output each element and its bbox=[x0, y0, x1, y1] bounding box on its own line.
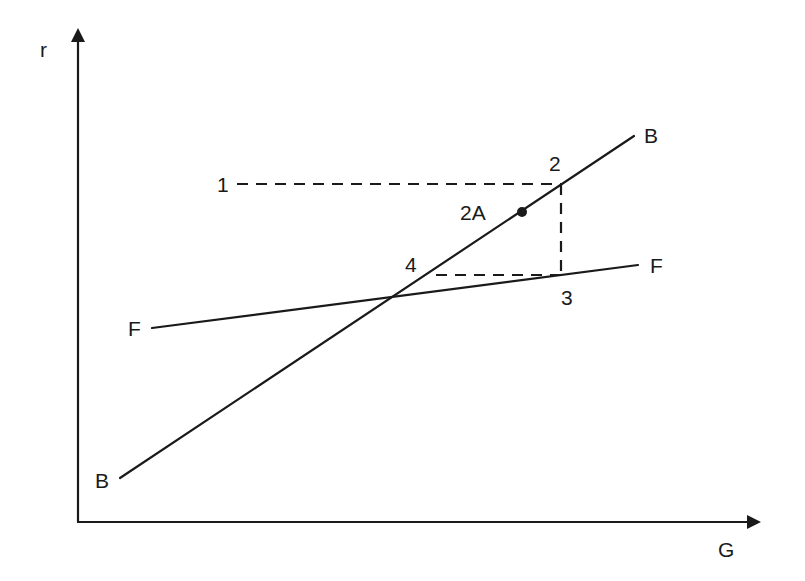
x-axis-arrow-icon bbox=[747, 515, 761, 529]
y-axis: r bbox=[40, 28, 85, 522]
y-axis-arrow-icon bbox=[71, 28, 85, 42]
point-2a-label: 2A bbox=[460, 201, 486, 224]
y-axis-label: r bbox=[40, 38, 47, 61]
diagram-canvas: r G B B F F 1 2 2A 3 4 bbox=[0, 0, 805, 581]
line-b-end-label: B bbox=[644, 124, 658, 147]
x-axis-label: G bbox=[718, 538, 734, 561]
x-axis: G bbox=[78, 515, 761, 561]
line-f: F F bbox=[128, 254, 663, 340]
line-f-start-label: F bbox=[128, 317, 141, 340]
point-3-label: 3 bbox=[561, 286, 573, 309]
point-2a-dot-icon bbox=[517, 207, 527, 217]
dashed-adjustment-path bbox=[237, 184, 561, 275]
line-f-end-label: F bbox=[650, 254, 663, 277]
point-2-label: 2 bbox=[549, 152, 561, 175]
line-b-start-label: B bbox=[95, 469, 109, 492]
point-1-label: 1 bbox=[217, 173, 229, 196]
line-b: B B bbox=[95, 124, 658, 492]
point-4-label: 4 bbox=[405, 253, 417, 276]
